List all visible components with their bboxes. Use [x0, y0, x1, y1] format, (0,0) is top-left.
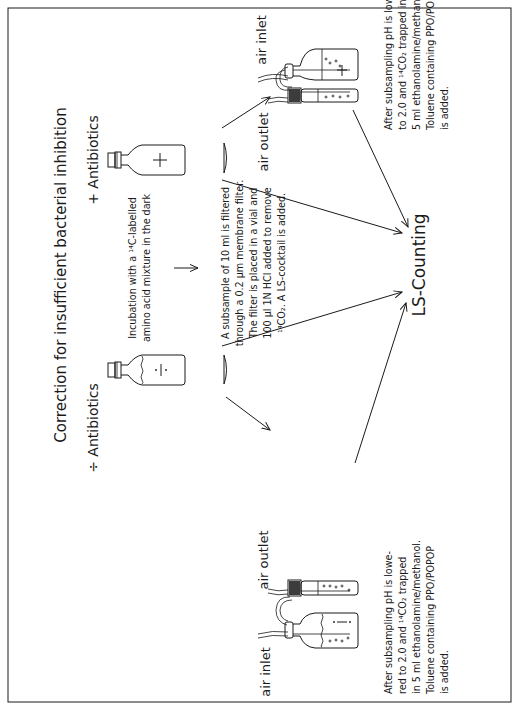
filter-mark-minus [224, 355, 227, 384]
top-note-line-1: After subsampling pH is lowe- [383, 0, 394, 130]
label-minus-antibiotics: ÷ Antibiotics [85, 383, 101, 473]
filtration-text-line-1: A subsample of 10 ml is filtered [220, 187, 231, 339]
incubation-bottle-minus [108, 355, 185, 385]
bottom-note-line-2: red to 2.0 and ¹⁴CO₂ trapped [397, 557, 408, 694]
incubation-bottle-plus [108, 145, 185, 175]
filtration-text-line-4: 100 µl 1N HCl added to remove [262, 187, 273, 338]
incubation-text-line-2: amino acid mixture in the dark [141, 193, 152, 342]
apparatus-top [258, 49, 358, 103]
bottom-note-line-5: is added. [439, 650, 450, 694]
filtration-text-line-2: through a 0.2 µm membrane filter. [234, 180, 245, 347]
ls-counting-label: LS-Counting [409, 213, 429, 316]
label-plus-antibiotics: + Antibiotics [85, 115, 101, 205]
bottom-note-line-4: Toluene containing PPO/POPOP [425, 546, 436, 695]
top-note-line-2: to 2.0 and ¹⁴CO₂ trapped in [397, 0, 408, 130]
arrow-minus-apparatus-to-ls [355, 303, 406, 463]
bottom-air-inlet-label: air inlet [258, 647, 273, 697]
diagram-figure: Correction for insufficient bacterial in… [0, 0, 520, 709]
bottom-air-outlet-label: air outlet [256, 530, 271, 589]
figure-title: Correction for insufficient bacterial in… [52, 107, 70, 442]
arrow-minus-to-apparatus [226, 397, 270, 430]
top-note-line-5: is added. [439, 86, 450, 130]
filtration-text-line-3: The filter is placed in a vial and [248, 188, 259, 340]
bottom-note-line-3: in 5 ml ethanolamine/methanol. [411, 540, 422, 694]
incubation-text-line-1: Incubation with a ¹⁴C-labelled [127, 197, 138, 339]
bottom-note-line-1: After subsampling pH is lowe- [383, 551, 394, 694]
top-air-inlet-label: air inlet [254, 15, 269, 65]
top-note-line-4: Toluene containing PPO/POPOP [425, 0, 436, 131]
top-air-outlet-label: air outlet [256, 112, 271, 171]
apparatus-bottom [258, 580, 358, 648]
top-note-line-3: 5 ml ethanolamine/methanol. [411, 0, 422, 130]
filtration-text-line-5: ¹⁴CO₂. A LS-cocktail is added. [276, 193, 287, 333]
filter-mark-plus [224, 143, 227, 173]
